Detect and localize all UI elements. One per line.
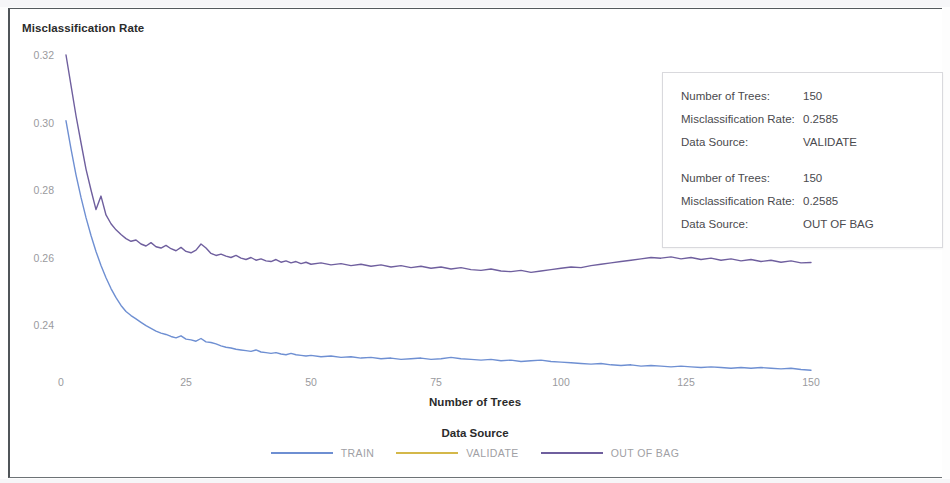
x-axis-tick-label: 75 (430, 376, 442, 388)
tooltip-value: 150 (803, 172, 822, 184)
x-axis-title: Number of Trees (0, 396, 950, 408)
tooltip-value: 0.2585 (803, 113, 838, 125)
tooltip-label: Number of Trees: (681, 90, 803, 102)
tooltip-row: Data Source: VALIDATE (681, 136, 942, 159)
misclassification-rate-chart: Misclassification Rate 0.320.300.280.260… (0, 0, 950, 483)
legend-item-label: OUT OF BAG (611, 447, 680, 459)
tooltip-group-out-of-bag: Number of Trees: 150 Misclassification R… (663, 172, 942, 241)
legend-item-train[interactable]: TRAIN (271, 447, 375, 459)
data-tip-box: Number of Trees: 150 Misclassification R… (662, 72, 943, 248)
tooltip-value: 150 (803, 90, 822, 102)
legend-item-validate[interactable]: VALIDATE (396, 447, 518, 459)
tooltip-label: Data Source: (681, 218, 803, 230)
tooltip-label: Misclassification Rate: (681, 113, 803, 125)
legend-title: Data Source (0, 427, 950, 439)
legend-item-label: VALIDATE (466, 447, 518, 459)
tooltip-row: Number of Trees: 150 (681, 172, 942, 195)
tooltip-group-validate: Number of Trees: 150 Misclassification R… (663, 90, 942, 159)
legend-item-out-of-bag[interactable]: OUT OF BAG (541, 447, 680, 459)
x-axis-tick-label: 25 (180, 376, 192, 388)
x-axis-tick-label: 0 (58, 376, 64, 388)
tooltip-row: Data Source: OUT OF BAG (681, 218, 942, 241)
x-axis-tick-label: 50 (305, 376, 317, 388)
legend-swatch-icon (396, 452, 458, 454)
tooltip-label: Number of Trees: (681, 172, 803, 184)
x-axis-tick-label: 100 (552, 376, 570, 388)
tooltip-label: Data Source: (681, 136, 803, 148)
legend-swatch-icon (541, 452, 603, 454)
x-axis-tick-label: 150 (802, 376, 820, 388)
tooltip-value: VALIDATE (803, 136, 857, 148)
tooltip-label: Misclassification Rate: (681, 195, 803, 207)
legend-item-label: TRAIN (341, 447, 375, 459)
tooltip-row: Number of Trees: 150 (681, 90, 942, 113)
x-axis-tick-label: 125 (677, 376, 695, 388)
tooltip-row: Misclassification Rate: 0.2585 (681, 195, 942, 218)
tooltip-value: 0.2585 (803, 195, 838, 207)
legend: TRAINVALIDATEOUT OF BAG (0, 447, 950, 459)
legend-swatch-icon (271, 452, 333, 454)
tooltip-row: Misclassification Rate: 0.2585 (681, 113, 942, 136)
tooltip-value: OUT OF BAG (803, 218, 874, 230)
